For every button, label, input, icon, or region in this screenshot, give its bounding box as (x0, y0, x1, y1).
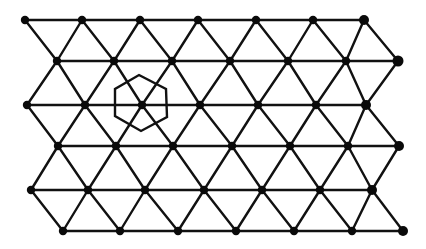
diagonal-edge (88, 146, 116, 190)
lattice-node (168, 57, 176, 65)
diagonal-edge (348, 146, 372, 190)
diagonal-edge (290, 146, 320, 190)
diagonal-edge (27, 105, 58, 146)
lattice-node (169, 142, 177, 150)
lattice-node (78, 16, 86, 24)
diagonal-edge (288, 20, 313, 61)
diagonal-edge (320, 146, 348, 190)
diagonal-edge (232, 105, 258, 146)
lattice-node (393, 56, 404, 67)
diagonal-edge (262, 190, 294, 231)
diagonal-edge (178, 190, 204, 231)
lattice-node (232, 227, 240, 235)
lattice-node (141, 186, 149, 194)
diagonal-edge (116, 146, 145, 190)
diagonal-edge (346, 61, 366, 105)
lattice-node (359, 15, 369, 25)
lattice-edges (25, 20, 403, 231)
diagonal-edge (348, 105, 366, 146)
lattice-node (348, 227, 356, 235)
diagonal-edge (116, 105, 142, 146)
diagonal-edge (145, 190, 178, 231)
lattice-node (312, 101, 320, 109)
diagonal-edge (294, 190, 320, 231)
diagonal-edge (142, 105, 173, 146)
lattice-node (344, 142, 352, 150)
diagonal-edge (290, 105, 316, 146)
diagonal-edge (204, 190, 236, 231)
lattice-node (110, 57, 118, 65)
lattice-node (53, 57, 61, 65)
lattice-node (196, 101, 204, 109)
lattice-node (112, 142, 120, 150)
triangular-lattice-diagram (0, 0, 426, 249)
diagonal-edge (88, 190, 120, 231)
hexagon-center-node (138, 101, 146, 109)
diagonal-edge (58, 105, 85, 146)
lattice-node (81, 101, 89, 109)
lattice-node (286, 142, 294, 150)
diagonal-edge (232, 146, 262, 190)
lattice-node (309, 16, 317, 24)
diagonal-edge (145, 146, 173, 190)
diagonal-edge (120, 190, 145, 231)
lattice-node (342, 57, 350, 65)
diagonal-edge (346, 20, 364, 61)
diagonal-edge (82, 20, 114, 61)
diagonal-edge (204, 146, 232, 190)
diagonal-edge (31, 146, 58, 190)
diagonal-edge (262, 146, 290, 190)
lattice-node (394, 141, 404, 151)
lattice-node (226, 57, 234, 65)
lattice-node (27, 186, 35, 194)
diagonal-edge (114, 20, 140, 61)
lattice-node (194, 16, 202, 24)
lattice-node (21, 16, 29, 24)
diagonal-edge (258, 61, 288, 105)
diagonal-edge (316, 61, 346, 105)
lattice-node (284, 57, 292, 65)
diagonal-edge (85, 61, 114, 105)
diagonal-edge (364, 20, 398, 61)
lattice-node (316, 186, 324, 194)
lattice-node (228, 142, 236, 150)
diagonal-edge (258, 105, 290, 146)
diagonal-edge (372, 190, 403, 231)
diagonal-edge (25, 20, 57, 61)
lattice-node (54, 142, 62, 150)
diagonal-edge (173, 105, 200, 146)
lattice-node (361, 100, 371, 110)
diagonal-edge (63, 190, 88, 231)
lattice-node (23, 101, 31, 109)
diagonal-edge (57, 61, 85, 105)
diagonal-edge (85, 105, 116, 146)
lattice-node (398, 226, 408, 236)
diagonal-edge (366, 61, 398, 105)
lattice-node (290, 227, 298, 235)
diagonal-edge (372, 146, 399, 190)
lattice-node (84, 186, 92, 194)
diagonal-edge (114, 61, 142, 105)
diagonal-edge (57, 20, 82, 61)
diagonal-edge (316, 105, 348, 146)
lattice-node (252, 16, 260, 24)
diagonal-edge (31, 190, 63, 231)
lattice-node (258, 186, 266, 194)
diagonal-edge (173, 146, 204, 190)
diagonal-edge (230, 20, 256, 61)
diagonal-edge (198, 20, 230, 61)
diagonal-edge (172, 20, 198, 61)
lattice-node (116, 227, 124, 235)
diagonal-edge (256, 20, 288, 61)
diagonal-edge (27, 61, 57, 105)
diagonal-edge (320, 190, 352, 231)
lattice-node (59, 227, 67, 235)
diagonal-edge (230, 61, 258, 105)
diagonal-edge (58, 146, 88, 190)
diagonal-edge (366, 105, 399, 146)
lattice-node (136, 16, 144, 24)
diagonal-edge (236, 190, 262, 231)
diagonal-edge (288, 61, 316, 105)
diagonal-edge (313, 20, 346, 61)
lattice-node (200, 186, 208, 194)
